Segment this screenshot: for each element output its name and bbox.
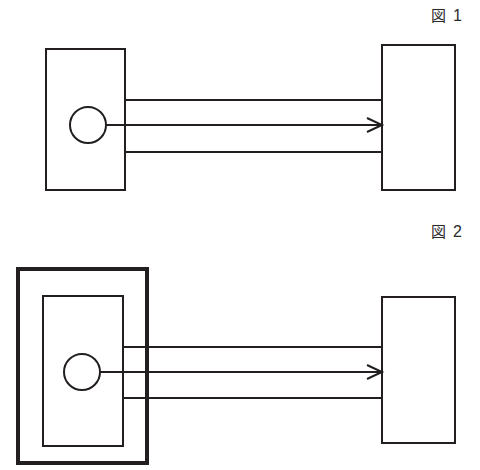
figure-2-node-circle bbox=[64, 354, 100, 390]
figure-2-target-box bbox=[382, 297, 455, 443]
figure-1-target-box bbox=[382, 45, 455, 190]
figure-1-group bbox=[46, 45, 455, 190]
figure-2-group bbox=[18, 269, 455, 463]
figure-2-caption: 図 2 bbox=[431, 224, 462, 240]
figure-1-caption-kanji: 図 bbox=[431, 9, 446, 24]
technical-diagram-canvas bbox=[0, 0, 480, 470]
figure-1-caption: 図 1 bbox=[431, 8, 462, 24]
figure-1-node-circle bbox=[70, 107, 106, 143]
figure-1-caption-number: 1 bbox=[453, 8, 462, 24]
figure-2-caption-number: 2 bbox=[453, 224, 462, 240]
diagram-page: 図 1 図 2 bbox=[0, 0, 480, 470]
figure-2-caption-kanji: 図 bbox=[431, 225, 446, 240]
